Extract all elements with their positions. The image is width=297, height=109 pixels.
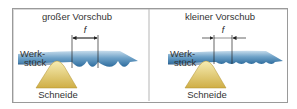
feed-dimension-label: f: [84, 25, 88, 35]
panel-small-feed: kleiner Vorschub Werk- stück Schneide f: [168, 11, 283, 100]
panel-large-feed: großer Vorschub Werk- stück Schneide f: [18, 11, 138, 100]
panel-title: großer Vorschub: [42, 11, 112, 22]
tool-label: Schneide: [38, 89, 78, 100]
feed-dimension-label: f: [222, 25, 226, 35]
feed-diagram: großer Vorschub Werk- stück Schneide f k…: [0, 0, 297, 109]
workpiece-label: stück: [174, 57, 196, 68]
tool-label: Schneide: [187, 89, 227, 100]
panel-title: kleiner Vorschub: [185, 11, 255, 22]
workpiece-label: stück: [24, 57, 46, 68]
